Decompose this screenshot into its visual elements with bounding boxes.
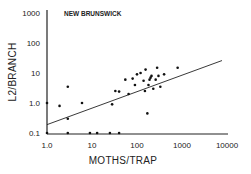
data-point (46, 132, 49, 135)
data-point (176, 66, 179, 69)
regression-line (47, 61, 222, 125)
data-point (154, 78, 157, 81)
data-point (131, 77, 134, 80)
data-point (139, 72, 142, 75)
axes (47, 10, 228, 134)
data-point (136, 73, 139, 76)
data-point (156, 66, 159, 69)
data-point (46, 102, 49, 105)
data-point (127, 93, 130, 96)
y-tick-labels: 0.11.0101001000 (22, 9, 40, 138)
data-point (67, 117, 70, 120)
x-axis-label: MOTHS/TRAP (89, 155, 158, 166)
x-tick-label: 10000 (216, 141, 239, 150)
data-point (147, 84, 150, 87)
data-point (96, 132, 99, 135)
scatter-chart: 0.11.0101001000 1.010100100010000 NEW BR… (0, 0, 251, 174)
data-point (109, 132, 112, 135)
chart-title: NEW BRUNSWICK (64, 10, 122, 17)
data-point (150, 75, 153, 78)
y-tick-label: 0.1 (29, 129, 41, 138)
data-point (152, 87, 155, 90)
y-tick-label: 10 (31, 69, 40, 78)
data-point (81, 102, 84, 105)
data-point (118, 90, 121, 93)
data-point (157, 75, 160, 78)
data-point (142, 79, 145, 82)
y-tick-label: 1000 (22, 9, 40, 18)
data-point (111, 103, 114, 106)
data-point (67, 132, 70, 135)
data-point (163, 73, 166, 76)
data-point (144, 90, 147, 93)
y-axis-label: L2/BRANCH (7, 43, 18, 102)
x-tick-label: 1000 (173, 141, 191, 150)
data-point (144, 68, 147, 71)
data-point (58, 105, 61, 108)
data-point (114, 90, 117, 93)
data-point (146, 112, 149, 115)
x-tick-labels: 1.010100100010000 (41, 141, 238, 150)
x-tick-label: 100 (130, 141, 144, 150)
data-point (159, 85, 162, 88)
data-point (134, 84, 137, 87)
data-point (124, 78, 127, 81)
data-point (89, 132, 92, 135)
y-tick-label: 1.0 (29, 99, 41, 108)
y-tick-label: 100 (27, 39, 41, 48)
x-tick-label: 10 (88, 141, 97, 150)
data-point (67, 85, 70, 88)
x-tick-label: 1.0 (41, 141, 53, 150)
data-point (118, 132, 121, 135)
